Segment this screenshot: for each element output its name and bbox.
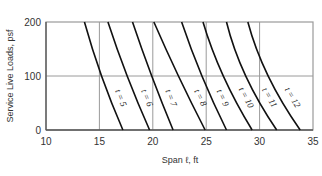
curve-label: t = 5 [113,88,129,108]
curve-label: t = 9 [215,88,232,109]
curve-label: t = 12 [283,85,303,110]
x-tick-label: 30 [254,136,266,147]
y-axis-label: Service Live Loads, psf [5,29,15,123]
x-axis-label: Span ℓ, ft [162,155,199,165]
curve-label: t = 11 [260,86,279,110]
y-tick-label: 0 [35,125,41,136]
curve-label: t = 10 [237,85,256,110]
x-tick-label: 35 [307,136,319,147]
y-tick-label: 200 [24,17,41,28]
x-tick-label: 20 [147,136,159,147]
x-tick-label: 10 [40,136,52,147]
x-tick-label: 25 [201,136,213,147]
y-axis-ticks: 0100200 [24,17,41,136]
grid-lines [46,22,313,130]
x-tick-label: 15 [94,136,106,147]
curve-label: t = 7 [163,88,179,108]
y-tick-label: 100 [24,71,41,82]
chart: t = 5t = 6t = 7t = 8t = 9t = 10t = 11t =… [0,0,322,176]
x-axis-ticks: 101520253035 [40,136,319,147]
